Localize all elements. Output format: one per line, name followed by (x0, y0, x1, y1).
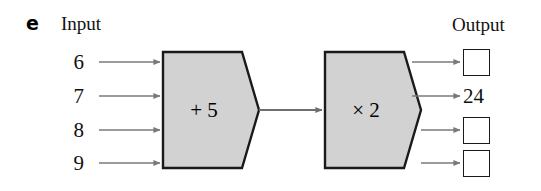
output-answer-box-1[interactable] (463, 49, 490, 76)
output-answer-box-3[interactable] (463, 117, 490, 144)
output-answer-box-4[interactable] (463, 150, 490, 177)
input-arrows (99, 62, 160, 163)
diagram-artwork (0, 0, 541, 191)
machine-2-operation-label: × 2 (330, 100, 402, 121)
machine-1-operation-label: + 5 (168, 100, 240, 121)
function-machine-diagram: e Input Output 6 7 8 9 (0, 0, 541, 191)
output-value-2: 24 (463, 86, 503, 107)
